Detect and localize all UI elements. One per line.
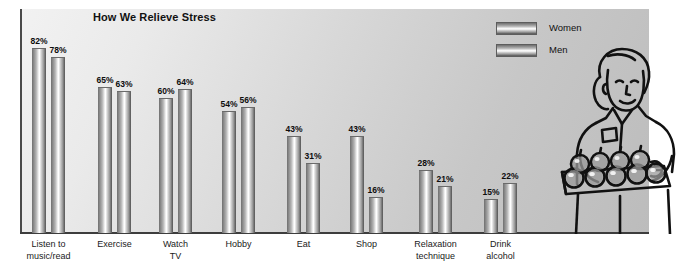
category-label-line2: music/read: [4, 251, 94, 263]
bar-men-1: [117, 91, 131, 233]
bar-value-label-men-6: 21%: [428, 174, 462, 184]
stress-relief-bar-chart: How We Relieve Stress Women Men: [0, 0, 679, 277]
bar-men-3: [241, 107, 255, 233]
category-label-7: Drinkalcohol: [456, 239, 546, 262]
legend-swatch-women-icon: [496, 22, 537, 35]
bar-value-label-women-4: 43%: [277, 124, 311, 134]
bar-women-2: [159, 98, 173, 233]
bar-value-label-women-6: 28%: [409, 158, 443, 168]
bar-men-0: [51, 57, 65, 233]
bar-value-label-men-3: 56%: [231, 95, 265, 105]
bar-men-2: [178, 89, 192, 233]
bar-value-label-women-2: 60%: [149, 86, 183, 96]
bar-women-3: [222, 111, 236, 233]
bar-women-1: [98, 87, 112, 233]
legend-label-women: Women: [549, 22, 582, 33]
bar-value-label-men-2: 64%: [168, 77, 202, 87]
category-label-line2: alcohol: [456, 251, 546, 263]
bar-value-label-men-1: 63%: [107, 79, 141, 89]
bar-women-0: [32, 48, 46, 233]
category-label-line1: Drink: [456, 239, 546, 251]
bar-value-label-women-5: 43%: [340, 124, 374, 134]
bar-men-5: [369, 197, 383, 233]
bar-value-label-men-5: 16%: [359, 185, 393, 195]
bar-men-4: [306, 163, 320, 233]
bar-value-label-women-7: 15%: [474, 187, 508, 197]
category-label-line2: TV: [131, 251, 221, 263]
bar-value-label-men-4: 31%: [296, 151, 330, 161]
woman-holding-tray-illustration-icon: [556, 44, 679, 234]
bar-value-label-men-0: 78%: [41, 45, 75, 55]
bar-women-7: [484, 199, 498, 233]
bar-men-6: [438, 186, 452, 233]
legend-swatch-men-icon: [496, 44, 537, 57]
bar-value-label-men-7: 22%: [493, 171, 527, 181]
